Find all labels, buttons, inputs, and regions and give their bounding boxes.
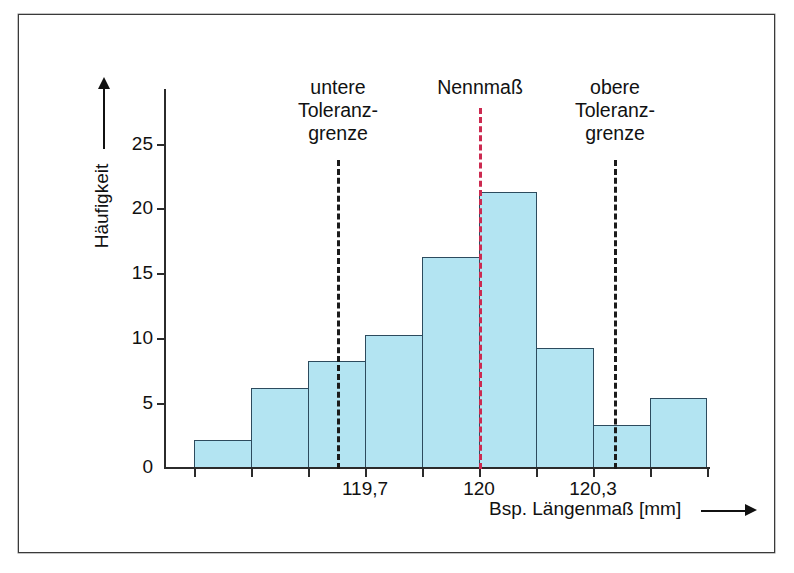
- x-tick-mark-3: [308, 469, 310, 477]
- bar-bin-7: [536, 348, 594, 469]
- y-axis-arrow-head-icon: [98, 77, 110, 89]
- bar-bin-5: [422, 257, 480, 469]
- lower-tolerance-label-line3: grenze: [253, 122, 423, 145]
- x-axis-arrow-shaft: [701, 510, 749, 512]
- x-axis-label: Bsp. Längenmaß [mm]: [489, 498, 681, 520]
- y-tick-label-20: 20: [111, 198, 153, 217]
- y-axis-arrow-shaft: [103, 87, 105, 149]
- y-tick-label-wrap-0: 0: [111, 457, 153, 476]
- bar-bin-4: [365, 335, 423, 469]
- x-tick-mark-4: [365, 469, 367, 477]
- x-tick-mark-7: [536, 469, 538, 477]
- x-axis-arrow-head-icon: [745, 504, 757, 516]
- y-tick-label-0: 0: [111, 457, 153, 476]
- y-tick-label-wrap-25: 25: [111, 134, 153, 153]
- upper-tolerance-line: [614, 160, 617, 469]
- upper-tolerance-label-line3: grenze: [530, 122, 700, 145]
- lower-tolerance-line: [337, 160, 340, 469]
- y-tick-label-5: 5: [111, 393, 153, 412]
- x-tick-mark-10: [707, 469, 709, 477]
- x-axis-line: [164, 467, 710, 469]
- x-tick-mark-8: [593, 469, 595, 477]
- x-tick-label-120: 120: [439, 478, 519, 500]
- nominal-dimension-line: [479, 108, 482, 469]
- upper-tolerance-label-line2: Toleranz-: [530, 99, 700, 122]
- figure-frame: Häufigkeit 25 20 15 10 5 0: [18, 14, 775, 553]
- y-tick-label-15: 15: [111, 263, 153, 282]
- y-axis-label: Häufigkeit: [91, 141, 113, 271]
- x-tick-mark-9: [650, 469, 652, 477]
- y-tick-label-25: 25: [111, 134, 153, 153]
- y-tick-label-10: 10: [111, 328, 153, 347]
- x-tick-label-120-3: 120,3: [553, 478, 633, 500]
- bar-bin-9: [650, 398, 707, 469]
- x-tick-mark-2: [251, 469, 253, 477]
- y-tick-mark-5: [157, 403, 164, 405]
- bar-bin-8: [593, 425, 651, 469]
- y-tick-label-wrap-5: 5: [111, 393, 153, 412]
- x-tick-mark-6: [479, 469, 481, 477]
- y-tick-mark-15: [157, 273, 164, 275]
- y-tick-mark-25: [157, 144, 164, 146]
- x-tick-mark-1: [194, 469, 196, 477]
- x-tick-mark-5: [422, 469, 424, 477]
- lower-tolerance-label-line2: Toleranz-: [253, 99, 423, 122]
- bar-bin-2: [251, 388, 309, 469]
- histogram-plot: Häufigkeit 25 20 15 10 5 0: [19, 15, 794, 573]
- x-tick-label-119-7: 119,7: [325, 478, 405, 500]
- y-tick-mark-20: [157, 208, 164, 210]
- bar-bin-1: [194, 440, 252, 469]
- upper-tolerance-label-line1: obere: [530, 76, 700, 99]
- y-axis-line: [164, 89, 166, 469]
- y-tick-label-wrap-20: 20: [111, 198, 153, 217]
- bar-bin-6: [479, 192, 537, 469]
- upper-tolerance-label: obere Toleranz- grenze: [530, 76, 700, 145]
- y-tick-label-wrap-10: 10: [111, 328, 153, 347]
- y-tick-mark-10: [157, 338, 164, 340]
- y-tick-label-wrap-15: 15: [111, 263, 153, 282]
